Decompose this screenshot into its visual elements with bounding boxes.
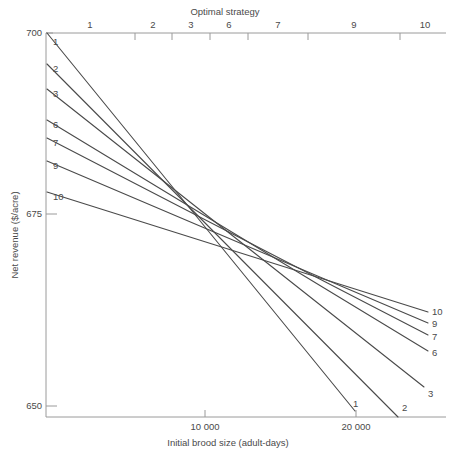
- series-start-label-10: 10: [53, 191, 64, 202]
- net-revenue-line-chart: Optimal strategy 1 2 3 6 7 9 10 700 675 …: [0, 0, 450, 458]
- x-tick-label-20000: 20 000: [341, 421, 370, 432]
- series-line-10: [47, 192, 428, 312]
- top-axis-label-1: 1: [87, 19, 92, 30]
- chart-figure: Optimal strategy 1 2 3 6 7 9 10 700 675 …: [0, 0, 450, 458]
- series-start-label-3: 3: [53, 88, 58, 99]
- top-axis-label-3: 3: [188, 19, 193, 30]
- x-axis-title: Initial brood size (adult-days): [167, 437, 288, 448]
- series-line-9: [47, 161, 428, 323]
- series-line-3: [47, 89, 424, 387]
- series-end-label-3: 3: [428, 388, 433, 399]
- series-end-label-6: 6: [432, 347, 437, 358]
- series-start-label-2: 2: [53, 63, 58, 74]
- top-axis-label-2: 2: [150, 19, 155, 30]
- series-line-6: [47, 120, 428, 351]
- series-line-2: [47, 64, 398, 417]
- x-tick-label-10000: 10 000: [190, 421, 219, 432]
- top-axis-label-7: 7: [275, 19, 280, 30]
- y-tick-label-700: 700: [26, 27, 42, 38]
- series-start-label-7: 7: [53, 137, 58, 148]
- top-axis-label-10: 10: [420, 19, 431, 30]
- top-axis-label-9: 9: [351, 19, 356, 30]
- top-axis-ticks: [135, 33, 400, 40]
- y-tick-label-675: 675: [26, 208, 42, 219]
- series-start-label-9: 9: [53, 160, 58, 171]
- series-line-1: [47, 33, 355, 411]
- series-start-label-1: 1: [53, 36, 58, 47]
- series-start-labels: 1 2 3 6 7 9 10: [53, 36, 64, 202]
- y-axis-title: Net revenue ($/acre): [9, 191, 20, 278]
- series-end-label-9: 9: [432, 318, 437, 329]
- series-start-label-6: 6: [53, 119, 58, 130]
- series-end-labels: 10 9 7 6 3 2 1: [353, 306, 443, 413]
- top-axis-label-6: 6: [226, 19, 231, 30]
- series-end-label-2: 2: [402, 402, 407, 413]
- chart-title: Optimal strategy: [190, 6, 259, 17]
- series-end-label-10: 10: [432, 306, 443, 317]
- series-line-7: [47, 138, 428, 335]
- series-end-label-7: 7: [432, 331, 437, 342]
- x-axis-ticks: [205, 410, 356, 417]
- data-series-group: [47, 33, 428, 417]
- y-tick-label-650: 650: [26, 400, 42, 411]
- series-end-label-1: 1: [353, 398, 358, 409]
